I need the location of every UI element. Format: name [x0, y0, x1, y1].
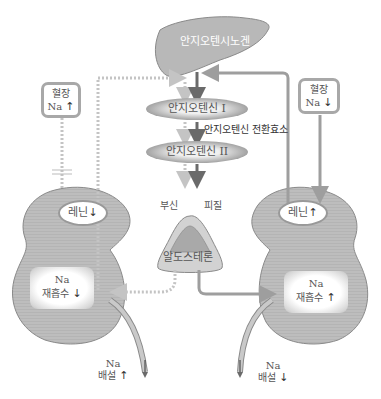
- aldosterone-label: 알도스테론: [163, 252, 213, 264]
- right-reabs-label: 재흡수: [296, 292, 323, 303]
- down-arrow-icon: ↓: [279, 371, 288, 384]
- down-arrow-icon: ↓: [88, 206, 97, 219]
- cortex-label: 피질: [204, 200, 222, 212]
- left-renin-ellipse: 레닌↓: [58, 200, 108, 226]
- left-na-reabsorption-box: Na 재흡수 ↓: [30, 267, 94, 309]
- angiotensinogen-label: 안지오텐시노겐: [180, 36, 250, 48]
- angiotensin-1-pill: 안지오텐신 I: [146, 98, 248, 120]
- left-reabs-label: 재흡수: [42, 288, 69, 299]
- right-plasma-label: 혈장: [301, 83, 337, 96]
- solid-line-aldosterone: [199, 270, 268, 294]
- diagram-graphics: [0, 0, 381, 399]
- right-renin-label: 레닌: [288, 206, 308, 219]
- up-arrow-icon: ↑: [308, 206, 317, 219]
- adrenal-label: 부신: [160, 200, 178, 212]
- right-excr-label: 배설: [258, 372, 276, 383]
- angiotensin-1-label: 안지오텐신 I: [168, 102, 226, 115]
- right-plasma-na: Na: [305, 97, 320, 108]
- right-plasma-na-box: 혈장 Na ↓: [298, 78, 340, 114]
- left-plasma-na: Na: [47, 101, 62, 112]
- down-arrow-icon: ↓: [323, 96, 332, 109]
- left-na-excretion: Na 배설 ↑: [98, 358, 128, 382]
- left-plasma-label: 혈장: [44, 87, 78, 100]
- angiotensin-2-label: 안지오텐신 II: [166, 145, 228, 158]
- dotted-line-aldosterone: [118, 270, 175, 292]
- left-reabs-na: Na: [30, 273, 94, 287]
- left-excr-label: 배설: [98, 370, 116, 381]
- angiotensin-2-pill: 안지오텐신 II: [146, 141, 248, 163]
- right-na-excretion: Na 배설 ↓: [258, 360, 288, 384]
- down-arrow-icon: ↓: [72, 287, 81, 300]
- ace-enzyme-label: 안지오텐신 전환효소: [204, 124, 288, 136]
- right-reabs-na: Na: [284, 277, 348, 291]
- up-arrow-icon: ↑: [326, 291, 335, 304]
- right-na-reabsorption-box: Na 재흡수 ↑: [284, 271, 348, 313]
- left-renin-label: 레닌: [68, 206, 88, 219]
- right-renin-ellipse: 레닌↑: [278, 200, 328, 226]
- up-arrow-icon: ↑: [119, 369, 128, 382]
- left-plasma-na-box: 혈장 Na ↑: [41, 82, 81, 118]
- up-arrow-icon: ↑: [65, 100, 74, 113]
